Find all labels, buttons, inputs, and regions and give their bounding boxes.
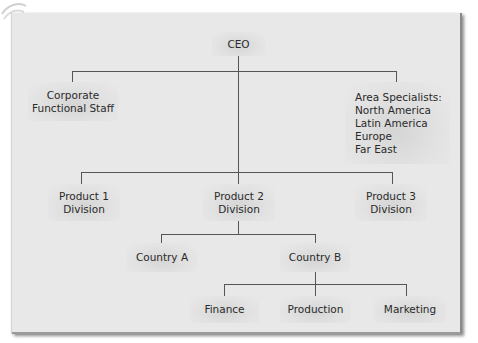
connector-to-product-3 [392, 172, 393, 184]
node-product-1-division: Product 1 Division [48, 184, 120, 221]
node-product-3-division: Product 3 Division [355, 184, 427, 221]
connector-to-corporate-staff [72, 71, 73, 82]
node-corporate-functional-staff: Corporate Functional Staff [28, 82, 118, 121]
node-corporate-staff-label: Corporate Functional Staff [32, 89, 114, 115]
connector-to-product-2 [238, 172, 239, 184]
connector-to-marketing [406, 284, 407, 296]
connector-to-area-specialists [396, 71, 397, 82]
connector-product-2-trunk [238, 220, 239, 234]
connector-division-level [81, 172, 393, 173]
org-chart-figure: CEO Corporate Functional Staff Area Spec… [0, 0, 478, 343]
connector-to-finance [224, 284, 225, 296]
node-product-2-division: Product 2 Division [203, 184, 275, 221]
connector-to-country-a [161, 234, 162, 243]
connector-staff-level [72, 71, 397, 72]
node-country-b-label: Country B [289, 251, 341, 264]
node-marketing-label: Marketing [384, 303, 436, 316]
node-area-specialists: Area Specialists: North America Latin Am… [345, 82, 450, 164]
node-production: Production [280, 296, 351, 323]
node-area-specialists-label: Area Specialists: North America Latin Am… [355, 91, 442, 156]
node-marketing: Marketing [374, 296, 446, 323]
connector-to-country-b [315, 234, 316, 243]
node-product-1-label: Product 1 Division [59, 190, 109, 216]
connector-to-product-1 [81, 172, 82, 184]
connector-function-level [224, 284, 407, 285]
node-finance: Finance [190, 296, 259, 323]
node-product-3-label: Product 3 Division [366, 190, 416, 216]
chart-panel [12, 13, 462, 334]
node-ceo-label: CEO [227, 38, 249, 51]
node-production-label: Production [288, 303, 344, 316]
node-product-2-label: Product 2 Division [214, 190, 264, 216]
node-country-b: Country B [280, 243, 350, 272]
connector-ceo-trunk [238, 56, 239, 172]
node-finance-label: Finance [204, 303, 244, 316]
connector-country-level [161, 234, 316, 235]
node-ceo: CEO [212, 32, 265, 56]
node-country-a-label: Country A [136, 251, 188, 264]
node-country-a: Country A [127, 243, 197, 272]
